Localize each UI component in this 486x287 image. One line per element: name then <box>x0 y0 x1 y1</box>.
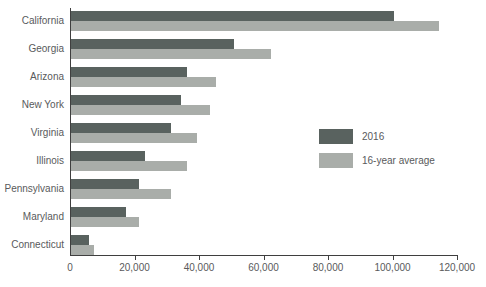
bar-16-year-average-illinois <box>71 161 187 171</box>
bar-16-year-average-virginia <box>71 133 197 143</box>
bar-16-year-average-pennsylvania <box>71 189 171 199</box>
category-label-maryland: Maryland <box>0 211 64 223</box>
category-label-connecticut: Connecticut <box>0 239 64 251</box>
x-tick-label: 100,000 <box>374 262 410 273</box>
bar-2016-georgia <box>71 39 234 49</box>
x-tick-mark <box>393 256 394 260</box>
bar-16-year-average-connecticut <box>71 245 94 255</box>
category-label-arizona: Arizona <box>0 71 64 83</box>
legend: 201616-year average <box>319 129 435 177</box>
legend-entry-2016: 2016 <box>319 129 435 144</box>
x-tick-label: 0 <box>67 262 73 273</box>
legend-label: 2016 <box>362 131 384 142</box>
bar-2016-maryland <box>71 207 126 217</box>
bar-2016-virginia <box>71 123 171 133</box>
x-tick-label: 60,000 <box>248 262 279 273</box>
x-tick-label: 20,000 <box>119 262 150 273</box>
x-tick-label: 120,000 <box>439 262 475 273</box>
legend-label: 16-year average <box>362 155 435 166</box>
x-tick-label: 80,000 <box>313 262 344 273</box>
x-tick-mark <box>264 256 265 260</box>
bar-2016-connecticut <box>71 235 89 245</box>
x-tick-mark <box>457 256 458 260</box>
x-tick-mark <box>199 256 200 260</box>
bar-16-year-average-georgia <box>71 49 271 59</box>
bar-2016-illinois <box>71 151 145 161</box>
bar-16-year-average-new-york <box>71 105 210 115</box>
category-label-pennsylvania: Pennsylvania <box>0 183 64 195</box>
x-tick-mark <box>135 256 136 260</box>
bar-2016-pennsylvania <box>71 179 139 189</box>
category-label-illinois: Illinois <box>0 155 64 167</box>
category-label-california: California <box>0 15 64 27</box>
category-label-georgia: Georgia <box>0 43 64 55</box>
bar-16-year-average-california <box>71 21 439 31</box>
legend-swatch <box>319 153 353 168</box>
bar-16-year-average-arizona <box>71 77 216 87</box>
bar-16-year-average-maryland <box>71 217 139 227</box>
category-label-virginia: Virginia <box>0 127 64 139</box>
legend-entry-16-year-average: 16-year average <box>319 153 435 168</box>
x-tick-label: 40,000 <box>184 262 215 273</box>
bar-2016-arizona <box>71 67 187 77</box>
legend-swatch <box>319 129 353 144</box>
bar-chart: CaliforniaGeorgiaArizonaNew YorkVirginia… <box>0 0 486 287</box>
category-label-new-york: New York <box>0 99 64 111</box>
bar-2016-california <box>71 11 394 21</box>
x-tick-mark <box>328 256 329 260</box>
bar-2016-new-york <box>71 95 181 105</box>
